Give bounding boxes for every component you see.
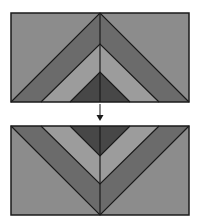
panel-original [11,13,189,102]
panel-flipped [11,126,189,215]
down-arrow-icon [97,104,104,121]
chevron-diagram [0,0,200,223]
